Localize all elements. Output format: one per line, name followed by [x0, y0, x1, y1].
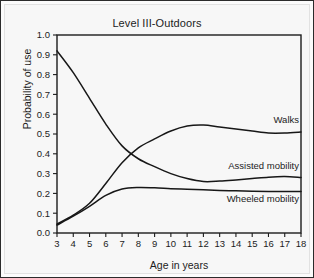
series-label-assisted-mobility: Assisted mobility [228, 160, 299, 171]
x-tick-label: 17 [279, 238, 290, 249]
y-tick-label: 0.2 [37, 188, 50, 199]
x-tick-label: 18 [296, 238, 307, 249]
x-tick-label: 16 [263, 238, 274, 249]
x-tick-label: 3 [54, 238, 59, 249]
chart-figure: Level III-Outdoors Probability of use Ag… [0, 0, 314, 278]
x-tick-label: 12 [198, 238, 209, 249]
x-tick-label: 13 [214, 238, 225, 249]
x-tick-label: 8 [136, 238, 141, 249]
y-tick-label: 0.3 [37, 168, 50, 179]
x-tick-label: 9 [152, 238, 157, 249]
x-tick-label: 11 [182, 238, 192, 249]
y-tick-label: 0.6 [37, 109, 50, 120]
x-tick-label: 5 [87, 238, 92, 249]
y-tick-label: 0.7 [37, 89, 50, 100]
x-tick-label: 10 [166, 238, 177, 249]
plot-area: 0.00.10.20.30.40.50.60.70.80.91.03456789… [5, 5, 313, 277]
y-tick-label: 0.5 [37, 128, 50, 139]
x-tick-label: 7 [119, 238, 124, 249]
x-tick-label: 15 [247, 238, 258, 249]
figure-inner-frame: Level III-Outdoors Probability of use Ag… [4, 4, 310, 274]
y-tick-label: 1.0 [37, 29, 50, 40]
series-label-walks: Walks [273, 114, 299, 125]
y-tick-label: 0.9 [37, 49, 50, 60]
x-tick-label: 6 [103, 238, 108, 249]
x-tick-label: 4 [71, 238, 76, 249]
y-tick-label: 0.4 [37, 148, 50, 159]
y-tick-label: 0.8 [37, 69, 50, 80]
y-tick-label: 0.1 [37, 208, 50, 219]
x-tick-label: 14 [231, 238, 242, 249]
series-curve-walks [57, 125, 301, 224]
series-label-wheeled-mobility: Wheeled mobility [227, 193, 300, 204]
y-tick-label: 0.0 [37, 227, 50, 238]
